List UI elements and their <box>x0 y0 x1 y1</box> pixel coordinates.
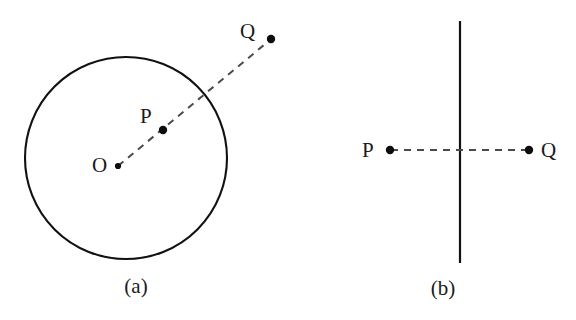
point-dot-p <box>386 146 394 154</box>
point-dot-p <box>159 126 167 134</box>
geometry-figure: O P Q (a) P Q (b) <box>0 0 576 320</box>
panel-caption-a: (a) <box>124 274 147 298</box>
point-label-o: O <box>92 153 107 177</box>
point-dot-q <box>525 146 533 154</box>
figure-canvas: O P Q (a) P Q (b) <box>0 0 576 320</box>
circle-boundary <box>25 57 227 259</box>
panel-b: P Q (b) <box>362 21 556 300</box>
panel-caption-b: (b) <box>431 276 456 300</box>
panel-a: O P Q (a) <box>25 19 275 298</box>
point-label-q: Q <box>240 19 255 43</box>
point-label-p: P <box>140 104 152 128</box>
point-label-p: P <box>362 138 374 162</box>
point-label-q: Q <box>541 138 556 162</box>
point-dot-o <box>115 163 121 169</box>
point-dot-q <box>267 35 275 43</box>
